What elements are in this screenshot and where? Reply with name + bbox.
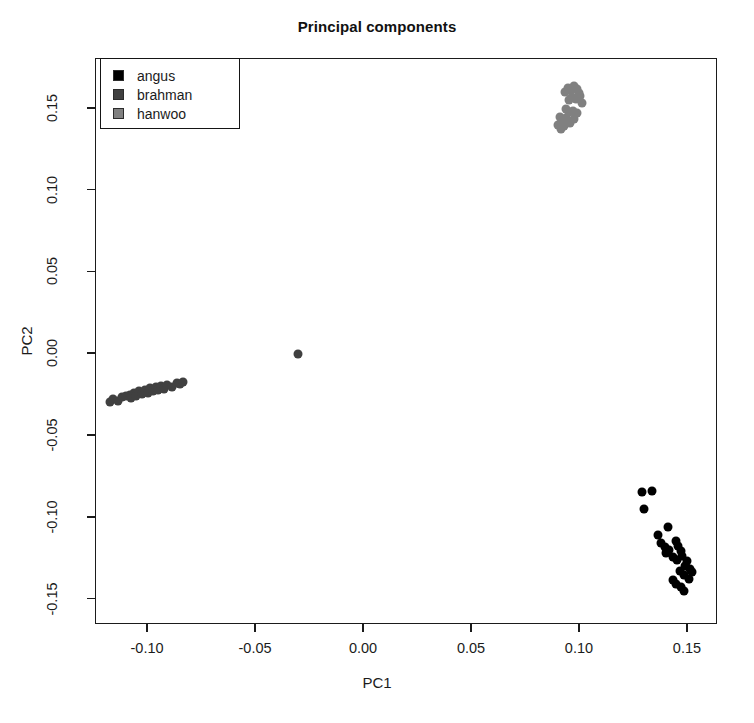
plot-area (95, 58, 717, 624)
scatter-plot-figure: Principal components -0.10-0.050.000.050… (0, 0, 754, 723)
y-axis-tick (87, 434, 95, 436)
x-axis-tick-label: 0.00 (349, 640, 377, 656)
x-axis-tick (254, 624, 256, 632)
y-axis-tick-label: 0.10 (44, 176, 60, 204)
y-axis-tick-label: 0.05 (44, 257, 60, 285)
y-axis-tick (87, 107, 95, 109)
legend-item-label: angus (137, 69, 175, 83)
y-axis-tick-label: -0.10 (44, 500, 60, 533)
legend-item-angus: angus (113, 66, 239, 85)
x-axis-tick-label: 0.05 (457, 640, 485, 656)
legend-item-hanwoo: hanwoo (113, 104, 239, 123)
x-axis-tick-label: -0.05 (239, 640, 272, 656)
legend-swatch-icon (113, 70, 124, 81)
y-axis-tick-label: -0.05 (44, 419, 60, 452)
y-axis-label: PC2 (18, 326, 35, 355)
legend-item-label: hanwoo (137, 107, 186, 121)
x-axis-tick (362, 624, 364, 632)
x-axis-tick-label: -0.10 (131, 640, 164, 656)
page-title: Principal components (0, 18, 754, 35)
x-axis-tick-label: 0.15 (673, 640, 701, 656)
y-axis-tick-label: -0.15 (44, 582, 60, 615)
legend-item-label: brahman (137, 88, 192, 102)
x-axis-tick (470, 624, 472, 632)
legend: angusbrahmanhanwoo (100, 58, 240, 129)
y-axis-tick-label: 0.00 (44, 339, 60, 367)
x-axis-tick (686, 624, 688, 632)
y-axis-tick-label: 0.15 (44, 94, 60, 122)
legend-swatch-icon (113, 108, 124, 119)
x-axis-tick-label: 0.10 (565, 640, 593, 656)
legend-swatch-icon (113, 89, 124, 100)
x-axis-tick (146, 624, 148, 632)
legend-item-brahman: brahman (113, 85, 239, 104)
x-axis-label: PC1 (0, 674, 754, 691)
y-axis-tick (87, 189, 95, 191)
y-axis-tick (87, 271, 95, 273)
y-axis-tick (87, 598, 95, 600)
y-axis-tick (87, 516, 95, 518)
y-axis-tick (87, 352, 95, 354)
x-axis-tick (578, 624, 580, 632)
